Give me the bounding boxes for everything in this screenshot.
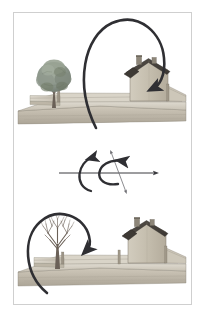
- tilt-axis-arrow: [111, 152, 126, 192]
- house-summer: [124, 55, 186, 101]
- illustration-plate: Seasonal sun path over house and deciduo…: [0, 0, 210, 325]
- panel-summer: [18, 20, 186, 128]
- panel-winter: [18, 214, 186, 293]
- illustration-artwork: [0, 0, 210, 325]
- house-winter: [122, 217, 186, 263]
- sun-path-axis-diagram: [59, 152, 156, 192]
- arc-outer: [79, 158, 92, 191]
